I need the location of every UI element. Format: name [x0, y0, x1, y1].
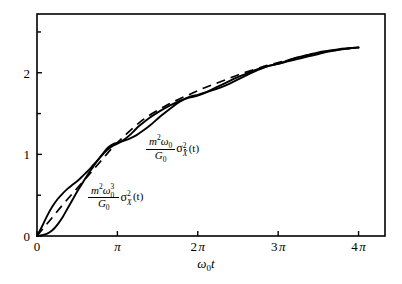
displacement-G: G	[98, 197, 106, 209]
displacement-fraction: m2ω30 G0	[88, 183, 119, 212]
y-tick-label-0: 0	[24, 229, 31, 244]
displacement-omega-scripts: 30	[110, 185, 116, 197]
velocity-m: m	[149, 135, 157, 147]
displacement-omega: ω	[103, 184, 111, 196]
velocity-omega-subscript: 0	[168, 141, 172, 150]
x-tick-label-0: 0	[34, 239, 41, 254]
x-tick-label-2: 2π	[191, 239, 206, 254]
velocity-sigma-subscript-xdot: X	[183, 150, 188, 158]
velocity-sigma-scripts: 2X	[183, 144, 189, 156]
x-tick-label-3: 3π	[271, 239, 286, 254]
y-tick-label-2: 2	[24, 66, 31, 81]
displacement-sigma-group: σ2X	[120, 191, 132, 204]
x-axis-title: ω0t	[197, 256, 215, 273]
x-axis-title-group: ω0t	[197, 256, 215, 273]
velocity-fraction: m2ω0 G0	[146, 134, 175, 164]
velocity-G: G	[155, 149, 163, 161]
displacement-G-subscript: 0	[106, 203, 110, 212]
figure-container: 0π2π3π4π 012 ω0t m2ω0 G0 σ2X(t) m2ω30 G0…	[0, 0, 402, 284]
displacement-argument: (t)	[133, 190, 143, 202]
velocity-G-subscript: 0	[163, 156, 167, 165]
x-tick-label-4: 4π	[351, 239, 366, 254]
velocity-argument: (t)	[189, 142, 199, 154]
annotation-displacement-variance: m2ω30 G0 σ2X(t)	[88, 183, 143, 212]
displacement-omega-exponent: 3	[110, 183, 114, 191]
annotation-velocity-variance: m2ω0 G0 σ2X(t)	[146, 134, 199, 164]
velocity-sigma-group: σ2X	[176, 142, 188, 155]
displacement-fraction-numerator: m2ω30	[88, 183, 119, 198]
displacement-fraction-denominator: G0	[88, 198, 119, 212]
x-axis-title-t: t	[211, 256, 215, 271]
displacement-sigma-exponent: 2	[127, 190, 131, 198]
displacement-omega-subscript: 0	[110, 192, 114, 200]
displacement-m: m	[91, 184, 99, 196]
displacement-sigma-subscript-x: X	[127, 199, 132, 207]
x-axis-tick-labels: 0π2π3π4π	[34, 239, 367, 254]
y-tick-label-1: 1	[24, 147, 31, 162]
y-axis-tick-labels: 012	[24, 66, 31, 244]
velocity-fraction-denominator: G0	[146, 150, 175, 164]
velocity-fraction-numerator: m2ω0	[146, 134, 175, 150]
displacement-sigma-scripts: 2X	[127, 192, 133, 204]
x-tick-label-1: π	[114, 239, 121, 254]
variance-plot: 0π2π3π4π 012 ω0t	[0, 0, 402, 284]
x-axis-title-omega: ω	[197, 256, 206, 271]
